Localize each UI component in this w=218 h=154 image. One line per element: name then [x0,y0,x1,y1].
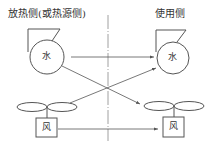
right-fan-icon [144,102,204,138]
left-pump-label: 水 [42,52,51,61]
arrow-pump-to-fan [62,66,140,104]
right-pump-label: 水 [168,53,177,62]
left-side-label: 放热侧(或热源侧) [8,9,86,19]
arrow-fan-to-pump [70,68,156,103]
right-side-label: 使用侧 [155,9,185,19]
left-fan-label: 风 [42,123,51,132]
right-fan-label: 风 [169,122,178,131]
diagram-canvas [0,0,218,154]
